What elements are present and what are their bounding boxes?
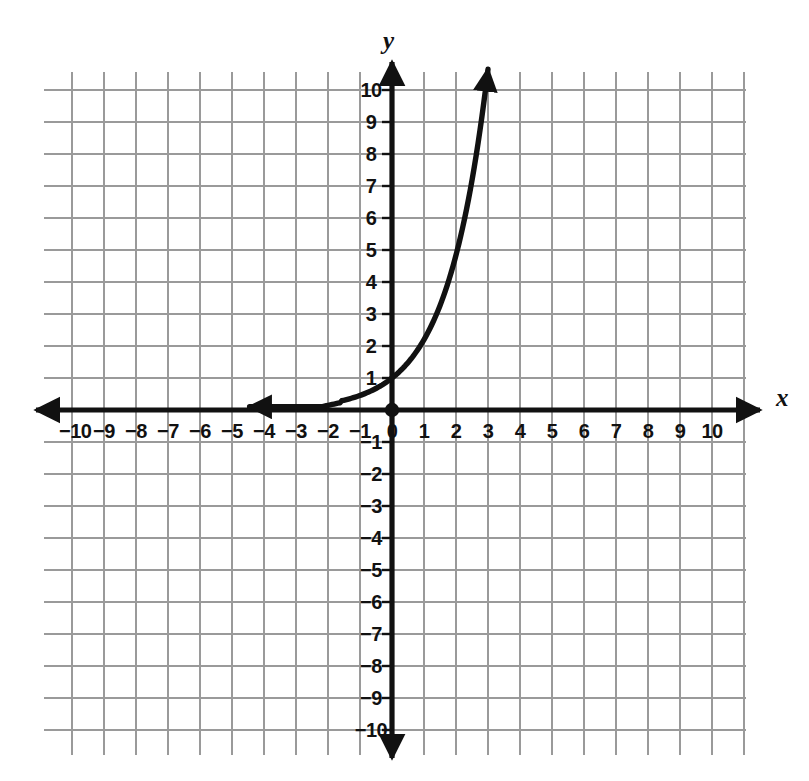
- y-tick-label-6: 6: [354, 208, 388, 228]
- y-tick-label-8: 8: [354, 144, 388, 164]
- y-axis-label: y: [383, 28, 394, 53]
- x-tick-label-1: 1: [411, 421, 437, 441]
- x-tick-label-4: 4: [507, 421, 533, 441]
- graph-canvas: −10−9−8−7−6−5−4−3−2−10123456789101098765…: [0, 0, 809, 781]
- y-tick-label-7: 7: [354, 176, 388, 196]
- y-tick-label--2: −2: [354, 464, 388, 484]
- x-tick-label--8: −8: [123, 421, 149, 441]
- y-tick-label--8: −8: [354, 656, 388, 676]
- x-tick-label-9: 9: [667, 421, 693, 441]
- x-tick-label--5: −5: [219, 421, 245, 441]
- x-tick-label-7: 7: [603, 421, 629, 441]
- x-tick-label-8: 8: [635, 421, 661, 441]
- x-tick-label--2: −2: [315, 421, 341, 441]
- x-tick-label--10: −10: [59, 421, 85, 441]
- y-tick-label-1: 1: [354, 368, 388, 388]
- y-tick-label--6: −6: [354, 592, 388, 612]
- y-tick-label--9: −9: [354, 688, 388, 708]
- y-tick-label-5: 5: [354, 240, 388, 260]
- x-tick-label-10: 10: [699, 421, 725, 441]
- x-tick-label--9: −9: [91, 421, 117, 441]
- x-tick-label-2: 2: [443, 421, 469, 441]
- y-tick-label--4: −4: [354, 528, 388, 548]
- origin-point-marker: [385, 403, 399, 417]
- y-tick-label-3: 3: [354, 304, 388, 324]
- x-tick-label-6: 6: [571, 421, 597, 441]
- y-tick-label-2: 2: [354, 336, 388, 356]
- y-tick-label--10: −10: [354, 720, 388, 740]
- y-tick-label-4: 4: [354, 272, 388, 292]
- y-tick-label--1: −1: [354, 432, 388, 452]
- y-tick-label--5: −5: [354, 560, 388, 580]
- x-tick-label--3: −3: [283, 421, 309, 441]
- x-axis-label: x: [776, 385, 789, 410]
- y-tick-label--3: −3: [354, 496, 388, 516]
- x-tick-label--4: −4: [251, 421, 277, 441]
- coordinate-plane-svg: [0, 0, 809, 781]
- x-tick-label--6: −6: [187, 421, 213, 441]
- y-tick-label-10: 10: [354, 80, 388, 100]
- y-tick-label-9: 9: [354, 112, 388, 132]
- x-tick-label-3: 3: [475, 421, 501, 441]
- y-tick-label--7: −7: [354, 624, 388, 644]
- x-tick-label--7: −7: [155, 421, 181, 441]
- x-tick-label-5: 5: [539, 421, 565, 441]
